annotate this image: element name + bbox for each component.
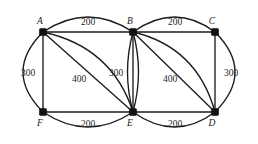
vertex-label-e: E — [126, 118, 133, 128]
vertex-label-f: F — [36, 118, 43, 128]
vertex-label-d: D — [208, 118, 216, 128]
vertex-dot-f[interactable] — [39, 108, 46, 115]
vertex-dot-e[interactable] — [129, 108, 136, 115]
vertex-dot-c[interactable] — [211, 28, 218, 35]
edge-bd-diagonal[interactable] — [133, 32, 215, 112]
weight-label-fe: 200 — [81, 119, 96, 129]
weight-label-bd: 400 — [163, 74, 178, 84]
edge-be-arc-right[interactable] — [133, 32, 139, 112]
weight-label-ae: 400 — [72, 74, 87, 84]
weight-label-bc: 200 — [168, 17, 183, 27]
weight-label-af: 300 — [21, 68, 36, 78]
weight-label-be: 300 — [109, 68, 124, 78]
weight-label-ed: 200 — [168, 119, 183, 129]
vertex-dot-d[interactable] — [211, 108, 218, 115]
weight-label-ab: 200 — [81, 17, 96, 27]
graph-canvas: A B C F E D 200 200 300 300 400 300 400 … — [0, 0, 258, 144]
vertex-label-a: A — [36, 16, 43, 26]
vertex-label-b: B — [127, 16, 133, 26]
vertex-dot-a[interactable] — [39, 28, 46, 35]
vertex-dot-b[interactable] — [129, 28, 136, 35]
weight-label-cd: 300 — [224, 68, 239, 78]
graph-figure: A B C F E D 200 200 300 300 400 300 400 … — [0, 0, 258, 144]
vertex-label-c: C — [209, 16, 216, 26]
